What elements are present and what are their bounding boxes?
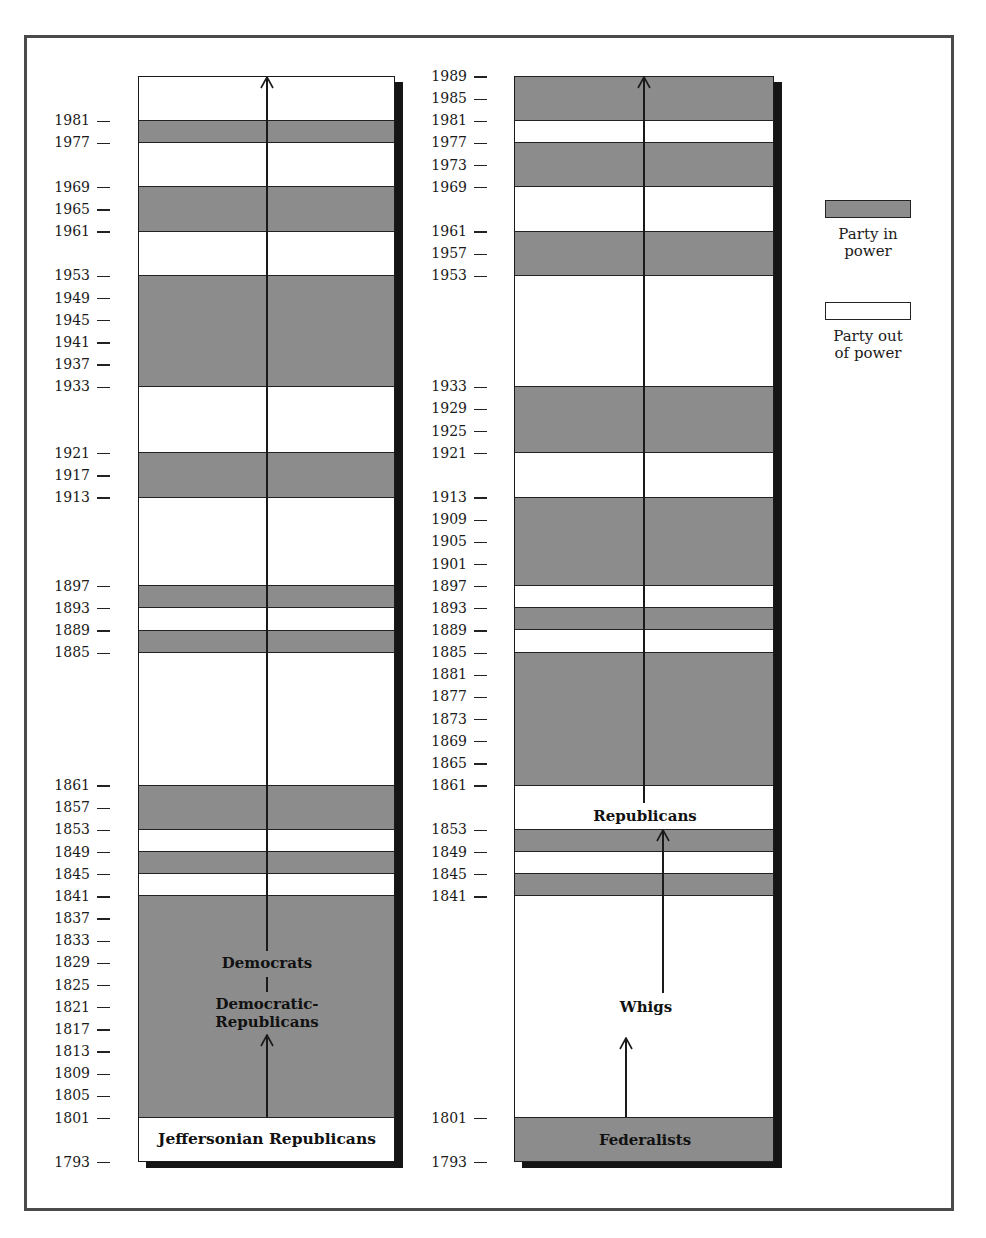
year-tick-1893: 1893 (407, 601, 487, 615)
year-tick-1981: 1981 (407, 113, 487, 127)
tick-mark (474, 874, 487, 875)
tick-mark (474, 99, 487, 100)
year-tick-1985: 1985 (407, 91, 487, 105)
year-label: 1925 (431, 423, 467, 439)
year-label: 1969 (54, 179, 90, 195)
year-tick-1969: 1969 (407, 180, 487, 194)
year-label: 1961 (54, 223, 90, 239)
year-tick-1873: 1873 (407, 712, 487, 726)
year-label: 1953 (431, 267, 467, 283)
tick-mark (474, 143, 487, 144)
year-label: 1989 (431, 68, 467, 84)
tick-mark (474, 564, 487, 565)
tick-mark (97, 497, 110, 498)
year-label: 1829 (54, 954, 90, 970)
legend-label-out-of-power-line2: of power (813, 345, 923, 362)
year-tick-1933: 1933 (407, 379, 487, 393)
year-label: 1857 (54, 799, 90, 815)
year-label: 1957 (431, 245, 467, 261)
year-tick-1885: 1885 (30, 645, 110, 659)
year-label: 1849 (54, 844, 90, 860)
year-label: 1889 (431, 622, 467, 638)
year-tick-1913: 1913 (30, 490, 110, 504)
year-tick-1805: 1805 (30, 1088, 110, 1102)
year-label: 1841 (431, 888, 467, 904)
year-tick-1853: 1853 (30, 822, 110, 836)
tick-mark (97, 276, 110, 277)
year-tick-1885: 1885 (407, 645, 487, 659)
year-label: 1977 (431, 134, 467, 150)
year-tick-1861: 1861 (407, 778, 487, 792)
republicans-line (643, 78, 645, 803)
tick-mark (97, 1118, 110, 1119)
year-tick-1969: 1969 (30, 180, 110, 194)
year-tick-1913: 1913 (407, 490, 487, 504)
year-label: 1813 (54, 1043, 90, 1059)
year-tick-1893: 1893 (30, 601, 110, 615)
tick-mark (97, 342, 110, 343)
year-tick-1853: 1853 (407, 822, 487, 836)
democrats-connector-dash (266, 977, 268, 992)
year-tick-1793: 1793 (30, 1155, 110, 1169)
year-tick-1845: 1845 (407, 867, 487, 881)
year-label: 1941 (54, 334, 90, 350)
tick-mark (97, 1074, 110, 1075)
democrats-line (266, 78, 268, 951)
legend-label-out-of-power-line1: Party out (813, 328, 923, 345)
year-label: 1805 (54, 1087, 90, 1103)
year-tick-1845: 1845 (30, 867, 110, 881)
in-power-band-1849-1853 (515, 829, 773, 852)
whigs-label: Whigs (620, 999, 672, 1015)
year-label: 1841 (54, 888, 90, 904)
year-label: 1869 (431, 733, 467, 749)
tick-mark (97, 830, 110, 831)
democratic-republicans-label-line2: Republicans (215, 1014, 319, 1030)
tick-mark (474, 830, 487, 831)
year-tick-1953: 1953 (407, 268, 487, 282)
year-label: 1897 (431, 578, 467, 594)
tick-mark (97, 653, 110, 654)
tick-mark (97, 1051, 110, 1052)
year-label: 1885 (54, 644, 90, 660)
year-tick-1809: 1809 (30, 1066, 110, 1080)
tick-mark (474, 387, 487, 388)
year-tick-1925: 1925 (407, 424, 487, 438)
tick-mark (97, 121, 110, 122)
year-tick-1965: 1965 (30, 202, 110, 216)
year-label: 1881 (431, 666, 467, 682)
tick-mark (97, 874, 110, 875)
year-label: 1889 (54, 622, 90, 638)
year-label: 1845 (431, 866, 467, 882)
year-label: 1861 (431, 777, 467, 793)
year-label: 1985 (431, 90, 467, 106)
tick-mark (474, 165, 487, 166)
tick-mark (97, 475, 110, 476)
year-tick-1849: 1849 (30, 845, 110, 859)
year-label: 1965 (54, 201, 90, 217)
year-tick-1865: 1865 (407, 756, 487, 770)
year-tick-1953: 1953 (30, 268, 110, 282)
in-power-band-1841-1845 (515, 873, 773, 896)
tick-mark (97, 453, 110, 454)
year-tick-1921: 1921 (407, 446, 487, 460)
tick-mark (474, 785, 487, 786)
tick-mark (474, 653, 487, 654)
year-tick-1901: 1901 (407, 557, 487, 571)
year-label: 1977 (54, 134, 90, 150)
tick-mark (97, 1029, 110, 1030)
tick-mark (474, 586, 487, 587)
year-tick-1937: 1937 (30, 357, 110, 371)
tick-mark (97, 808, 110, 809)
year-label: 1921 (54, 445, 90, 461)
year-label: 1865 (431, 755, 467, 771)
tick-mark (474, 1162, 487, 1163)
year-tick-1889: 1889 (30, 623, 110, 637)
tick-mark (97, 963, 110, 964)
year-label: 1885 (431, 644, 467, 660)
year-label: 1949 (54, 290, 90, 306)
tick-mark (474, 852, 487, 853)
year-tick-1869: 1869 (407, 734, 487, 748)
year-label: 1953 (54, 267, 90, 283)
year-label: 1825 (54, 977, 90, 993)
year-tick-1957: 1957 (407, 246, 487, 260)
